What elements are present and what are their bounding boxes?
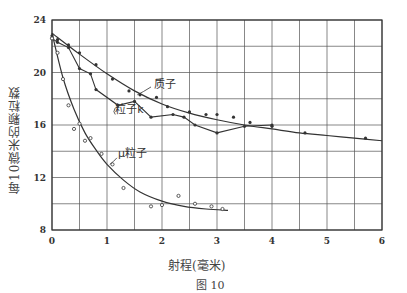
x-axis-label: 射程(毫米) — [0, 256, 407, 273]
data-point-filled — [67, 46, 70, 49]
grid — [52, 20, 382, 230]
data-series — [50, 33, 382, 210]
x-tick-label: 1 — [104, 236, 110, 246]
data-point-filled — [155, 96, 158, 99]
data-point-filled — [127, 89, 130, 92]
data-point-filled — [166, 105, 169, 108]
data-point-filled — [188, 110, 191, 113]
series-2 — [50, 33, 228, 210]
data-point-filled — [78, 51, 81, 54]
data-point-open — [78, 122, 81, 125]
data-point-filled — [270, 123, 273, 126]
y-tick-label: 12 — [33, 173, 46, 183]
data-point-filled — [89, 72, 92, 75]
x-tick-label: 0 — [49, 236, 55, 246]
annotation-leader — [137, 87, 151, 95]
data-point-open — [122, 186, 125, 189]
data-point-open — [83, 139, 86, 142]
data-point-filled — [303, 131, 306, 134]
data-point-filled — [243, 125, 246, 128]
x-tick-label: 2 — [159, 236, 165, 246]
figure-caption: 图 10 — [196, 276, 225, 292]
y-axis-label: 每10微米的颗粒数 — [6, 70, 22, 210]
data-point-open — [67, 104, 70, 107]
series-curve — [52, 33, 228, 210]
data-point-filled — [149, 116, 152, 119]
data-point-open — [72, 127, 75, 130]
series-annotation: μ粒子 — [118, 146, 147, 160]
data-point-open — [210, 205, 213, 208]
x-tick-label: 5 — [324, 236, 330, 246]
data-point-filled — [364, 137, 367, 140]
y-tick-label: 20 — [33, 68, 46, 78]
x-tick-label: 6 — [379, 236, 385, 246]
x-tick-label: 4 — [269, 236, 275, 246]
data-point-open — [177, 194, 180, 197]
data-point-filled — [78, 67, 81, 70]
data-point-open — [193, 202, 196, 205]
data-point-open — [89, 137, 92, 140]
y-tick-label: 24 — [33, 15, 46, 25]
data-point-filled — [215, 113, 218, 116]
data-point-filled — [193, 123, 196, 126]
data-point-open — [61, 77, 64, 80]
series-0 — [50, 33, 382, 141]
data-point-open — [100, 152, 103, 155]
data-point-filled — [232, 116, 235, 119]
data-point-open — [56, 51, 59, 54]
data-point-filled — [182, 116, 185, 119]
data-point-filled — [111, 77, 114, 80]
data-point-filled — [215, 131, 218, 134]
y-tick-label: 16 — [33, 120, 46, 130]
data-point-open — [50, 37, 53, 40]
data-point-open — [160, 203, 163, 206]
y-tick-label: 8 — [40, 225, 46, 235]
data-point-filled — [94, 63, 97, 66]
data-point-filled — [56, 41, 59, 44]
series-annotation: 质子 — [154, 78, 176, 91]
data-point-filled — [94, 88, 97, 91]
data-point-filled — [171, 113, 174, 116]
x-tick-label: 3 — [214, 236, 220, 246]
data-point-filled — [248, 121, 251, 124]
data-point-open — [149, 205, 152, 208]
data-point-open — [221, 207, 224, 210]
data-point-filled — [204, 113, 207, 116]
chart: 0123456812162024 质子粒子kμ粒子 — [0, 0, 407, 293]
series-annotation: 粒子k — [115, 102, 144, 116]
